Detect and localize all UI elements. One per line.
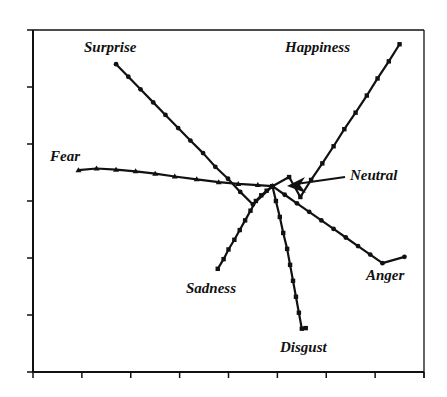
trajectory-line bbox=[272, 186, 404, 263]
data-point-marker bbox=[331, 144, 335, 148]
data-point-marker bbox=[282, 192, 287, 197]
data-point-marker bbox=[213, 164, 218, 169]
data-point-marker bbox=[387, 59, 391, 63]
data-point-marker bbox=[226, 176, 231, 181]
data-point-marker bbox=[356, 244, 361, 249]
data-point-marker bbox=[138, 87, 143, 92]
data-point-marker bbox=[297, 311, 301, 315]
data-point-marker bbox=[319, 218, 324, 223]
emotion-trajectory-chart: Surprise Happiness Fear Neutral Sadness … bbox=[0, 0, 447, 397]
data-point-marker bbox=[201, 151, 206, 156]
series-anger bbox=[270, 184, 407, 266]
data-point-marker bbox=[264, 189, 268, 193]
data-point-marker bbox=[375, 76, 379, 80]
trajectory-line bbox=[218, 186, 273, 269]
data-point-marker bbox=[285, 247, 289, 251]
data-point-marker bbox=[151, 100, 156, 105]
data-point-marker bbox=[397, 42, 401, 46]
data-point-marker bbox=[243, 218, 247, 222]
data-point-marker bbox=[300, 326, 304, 330]
data-point-marker bbox=[298, 195, 302, 199]
data-point-marker bbox=[380, 261, 385, 266]
data-point-marker bbox=[238, 189, 243, 194]
data-point-marker bbox=[216, 267, 220, 271]
data-point-marker bbox=[368, 252, 373, 257]
data-point-marker bbox=[365, 93, 369, 97]
data-point-marker bbox=[176, 126, 181, 131]
data-point-marker bbox=[232, 238, 236, 242]
data-point-marker bbox=[126, 74, 131, 79]
data-point-marker bbox=[331, 227, 336, 232]
data-point-marker bbox=[288, 263, 292, 267]
data-point-marker bbox=[238, 228, 242, 232]
data-point-marker bbox=[278, 215, 282, 219]
axis-ticks bbox=[27, 30, 424, 378]
data-point-marker bbox=[307, 209, 312, 214]
label-fear: Fear bbox=[49, 148, 80, 164]
data-point-marker bbox=[274, 199, 278, 203]
label-anger: Anger bbox=[365, 267, 405, 283]
data-point-marker bbox=[295, 201, 300, 206]
data-point-marker bbox=[402, 254, 407, 259]
label-neutral: Neutral bbox=[349, 167, 398, 183]
data-point-marker bbox=[353, 110, 357, 114]
data-point-marker bbox=[221, 257, 225, 261]
data-point-marker bbox=[291, 279, 295, 283]
label-sadness: Sadness bbox=[186, 280, 236, 296]
data-point-marker bbox=[294, 295, 298, 299]
data-point-marker bbox=[281, 231, 285, 235]
trajectory-line bbox=[272, 186, 305, 329]
data-point-marker bbox=[259, 193, 263, 197]
data-point-marker bbox=[248, 208, 252, 212]
plot-frame bbox=[33, 30, 424, 378]
label-happiness: Happiness bbox=[284, 39, 350, 55]
data-point-marker bbox=[287, 175, 291, 179]
data-point-marker bbox=[342, 127, 346, 131]
data-point-marker bbox=[226, 247, 230, 251]
data-point-marker bbox=[304, 326, 308, 330]
label-disgust: Disgust bbox=[279, 339, 328, 355]
data-point-marker bbox=[254, 199, 258, 203]
label-surprise: Surprise bbox=[84, 39, 137, 55]
data-point-marker bbox=[343, 235, 348, 240]
data-point-marker bbox=[188, 138, 193, 143]
series-lines bbox=[75, 42, 406, 331]
data-point-marker bbox=[320, 161, 324, 165]
series-fear bbox=[75, 166, 275, 189]
data-point-marker bbox=[270, 184, 274, 188]
trajectory-line bbox=[116, 64, 272, 204]
data-point-marker bbox=[163, 113, 168, 118]
data-point-marker bbox=[114, 62, 119, 67]
